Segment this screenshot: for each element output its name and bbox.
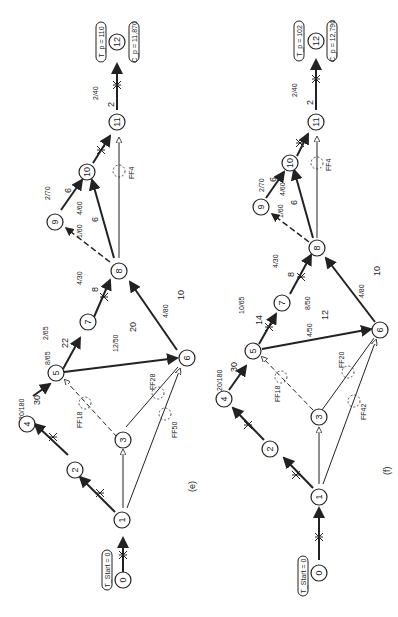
svg-text:12: 12 bbox=[311, 36, 321, 46]
duration-label: 6 bbox=[268, 177, 278, 182]
node-2: 2 bbox=[67, 462, 83, 478]
cost-rate-label: 2/70 bbox=[44, 186, 51, 200]
node-0: 0 bbox=[115, 572, 131, 588]
svg-text:T_Start = 0: T_Start = 0 bbox=[104, 552, 112, 587]
edge-5-6 bbox=[64, 358, 177, 372]
edge-1-6 bbox=[323, 340, 376, 484]
panel-caption: (f) bbox=[382, 467, 392, 476]
ff-label: FF4 bbox=[128, 166, 135, 179]
ff-label: FF50 bbox=[171, 422, 178, 438]
node-12: 12 bbox=[308, 33, 324, 49]
node-9: 9 bbox=[253, 199, 269, 215]
node-10: 10 bbox=[282, 155, 298, 171]
svg-text:2: 2 bbox=[265, 446, 275, 451]
svg-text:12: 12 bbox=[112, 37, 122, 47]
ff-label: FF18 bbox=[274, 386, 281, 402]
node-3: 3 bbox=[115, 432, 131, 448]
ff-circle-ff18 bbox=[79, 397, 91, 409]
cost-rate-label: 2/40 bbox=[291, 83, 298, 97]
node-9: 9 bbox=[47, 214, 63, 230]
node-4: 4 bbox=[216, 391, 232, 407]
cost-rate-label: 1/60 bbox=[76, 224, 83, 238]
svg-text:C_p = 11,870: C_p = 11,870 bbox=[131, 21, 139, 63]
duration-label: 22 bbox=[60, 338, 70, 348]
svg-text:5: 5 bbox=[51, 370, 61, 375]
cost-rate-label: 1/60 bbox=[277, 204, 284, 218]
cost-rate-label: 4/30 bbox=[272, 254, 279, 268]
node-3: 3 bbox=[311, 409, 327, 425]
node-1: 1 bbox=[311, 489, 327, 505]
edge-1-2 bbox=[80, 477, 115, 512]
node-1: 1 bbox=[114, 512, 130, 528]
project-cost-pill: C_p = 11,870 bbox=[129, 21, 139, 63]
edge-3-5 bbox=[262, 357, 313, 410]
duration-label: 10 bbox=[372, 266, 382, 276]
node-12: 12 bbox=[109, 34, 125, 50]
node-4: 4 bbox=[19, 416, 35, 432]
svg-text:4: 4 bbox=[219, 396, 229, 401]
node-11: 11 bbox=[308, 114, 324, 130]
duration-label: 30 bbox=[32, 395, 42, 405]
svg-text:6: 6 bbox=[375, 327, 385, 332]
cost-rate-label: 8/50 bbox=[304, 296, 311, 310]
cost-rate-label: 4/50 bbox=[306, 323, 313, 337]
svg-text:0: 0 bbox=[118, 577, 128, 582]
duration-label: 8 bbox=[286, 272, 296, 277]
node-8: 8 bbox=[309, 240, 325, 256]
ff-label: FF18 bbox=[76, 412, 83, 428]
start-time-pill: T_Start = 0 bbox=[102, 550, 112, 590]
edge-4-5 bbox=[33, 384, 50, 396]
svg-text:T_p = 102: T_p = 102 bbox=[296, 25, 304, 57]
cost-rate-label: 2/70 bbox=[258, 178, 265, 192]
svg-text:4: 4 bbox=[22, 421, 32, 426]
edge-6-8 bbox=[130, 282, 177, 350]
duration-label: 30 bbox=[229, 362, 239, 372]
project-time-pill: T_p = 102 bbox=[294, 21, 304, 61]
node-6: 6 bbox=[372, 322, 388, 338]
cost-rate-label: 4/80 bbox=[162, 304, 169, 318]
svg-text:0: 0 bbox=[314, 570, 324, 575]
ff-label: FF4 bbox=[325, 158, 332, 171]
svg-text:8: 8 bbox=[312, 245, 322, 250]
svg-text:11: 11 bbox=[311, 117, 321, 126]
cost-rate-label: 10/65 bbox=[238, 296, 245, 314]
duration-label: 14 bbox=[254, 315, 264, 325]
svg-text:1: 1 bbox=[117, 517, 127, 522]
svg-text:3: 3 bbox=[314, 414, 324, 419]
node-7: 7 bbox=[80, 314, 96, 330]
cost-rate-label: 4/60 bbox=[76, 201, 83, 215]
panel-f: FF18 FF20 FF42 FF4 30 20/180 14 10/65 12… bbox=[216, 20, 392, 596]
duration-label: 20 bbox=[128, 322, 138, 332]
duration-label: 12 bbox=[320, 310, 330, 320]
start-time-pill: T_Start = 0 bbox=[298, 556, 308, 596]
node-11: 11 bbox=[109, 114, 125, 130]
svg-text:3: 3 bbox=[118, 437, 128, 442]
svg-text:10: 10 bbox=[82, 167, 92, 177]
node-2: 2 bbox=[262, 441, 278, 457]
cost-rate-label: 8/65 bbox=[44, 351, 51, 365]
node-0: 0 bbox=[311, 565, 327, 581]
ff-label: FF20 bbox=[338, 352, 345, 368]
project-cost-pill: C_p = 12,790 bbox=[327, 20, 337, 62]
duration-label: 2 bbox=[106, 102, 116, 107]
ff-circle-ff50 bbox=[159, 408, 171, 420]
duration-label: 2 bbox=[305, 100, 315, 105]
ff-label: FF28 bbox=[149, 374, 156, 390]
svg-text:C_p = 12,790: C_p = 12,790 bbox=[329, 20, 337, 62]
cost-rate-label: 2/65 bbox=[42, 326, 49, 340]
svg-text:7: 7 bbox=[277, 300, 287, 305]
node-5: 5 bbox=[48, 365, 64, 381]
node-8: 8 bbox=[111, 263, 127, 279]
svg-text:T_Start = 0: T_Start = 0 bbox=[300, 558, 308, 593]
cost-rate-label: 2/40 bbox=[92, 86, 99, 100]
cost-rate-label: 20/180 bbox=[216, 369, 223, 391]
node-6: 6 bbox=[179, 350, 195, 366]
duration-label: 6 bbox=[289, 200, 299, 205]
node-7: 7 bbox=[274, 295, 290, 311]
svg-text:9: 9 bbox=[256, 204, 266, 209]
edge-3-5 bbox=[65, 380, 117, 437]
project-time-pill: T_p = 110 bbox=[96, 22, 106, 62]
ff-label: FF42 bbox=[360, 404, 367, 420]
svg-text:10: 10 bbox=[285, 158, 295, 168]
svg-text:9: 9 bbox=[50, 219, 60, 224]
